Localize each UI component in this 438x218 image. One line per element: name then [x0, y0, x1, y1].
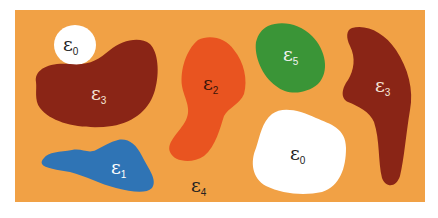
diagram-canvas: ε0 ε3 ε2 ε5 ε3 ε1 ε0 ε4 [0, 0, 438, 218]
domain-diagram: ε0 ε3 ε2 ε5 ε3 ε1 ε0 ε4 [0, 0, 438, 218]
region-white-circle [54, 25, 96, 65]
